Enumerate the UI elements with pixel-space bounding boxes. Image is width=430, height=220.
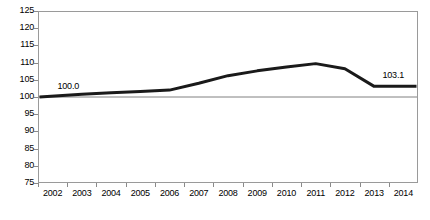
y-axis-tick-mark <box>34 166 38 167</box>
y-axis-tick-mark <box>34 45 38 46</box>
start-value-label: 100.0 <box>58 81 80 91</box>
y-axis-tick-mark <box>34 131 38 132</box>
y-axis-tick-mark <box>34 11 38 12</box>
x-axis-tick-mark <box>155 183 156 187</box>
x-axis-tick-mark <box>243 183 244 187</box>
x-axis-tick-mark <box>38 183 39 187</box>
x-axis-tick-mark <box>389 183 390 187</box>
x-axis-tick-mark <box>301 183 302 187</box>
end-value-label: 103.1 <box>383 70 405 80</box>
y-axis-tick-mark <box>34 114 38 115</box>
y-axis-tick-mark <box>34 28 38 29</box>
x-axis-tick-mark <box>96 183 97 187</box>
x-axis-tick-mark <box>126 183 127 187</box>
x-axis-tick-mark <box>330 183 331 187</box>
y-axis-tick-mark <box>34 80 38 81</box>
data-series-line <box>40 64 417 97</box>
x-axis-tick-mark <box>360 183 361 187</box>
x-axis-tick-mark <box>272 183 273 187</box>
x-axis-tick-mark <box>67 183 68 187</box>
x-axis-tick-mark <box>184 183 185 187</box>
y-axis-tick-mark <box>34 97 38 98</box>
y-axis-tick-mark <box>34 149 38 150</box>
x-axis-tick-mark <box>213 183 214 187</box>
y-axis-tick-mark <box>34 63 38 64</box>
line-chart: 1251201151101051009590858075 20022003200… <box>0 0 430 220</box>
plot-svg <box>0 0 430 220</box>
